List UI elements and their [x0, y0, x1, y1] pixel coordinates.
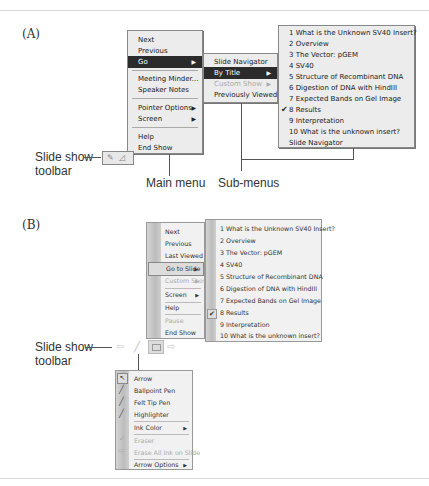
menu-item-custom-show[interactable]: Custom Show ▶	[163, 275, 204, 287]
callout-text: toolbar	[35, 354, 93, 368]
menu-item-custom-show-label: Custom Show	[214, 80, 262, 88]
menu-item-eraser[interactable]: Eraser	[132, 435, 192, 447]
panel-a-by-title-submenu: 1 What is the Unknown SV40 Insert? 2 Ove…	[278, 25, 415, 148]
check-icon: ✔	[207, 309, 217, 319]
submenu-arrow-icon: ▶	[183, 422, 187, 434]
panel-a-go-submenu: Slide Navigator By Title ▶ Custom Show ▶…	[203, 53, 278, 103]
slide-item[interactable]: 6 Digestion of DNA with HindIII	[218, 283, 321, 295]
menu-separator	[132, 127, 198, 128]
slide-item[interactable]: 4 SV40	[218, 259, 321, 271]
previous-arrow-icon[interactable]: ⇦	[116, 341, 124, 352]
panel-b-main-menu: Next Previous Last Viewed Go to Slide ▶ …	[146, 222, 205, 339]
menu-separator	[132, 70, 198, 71]
callout-line	[241, 103, 242, 171]
menu-item-ballpoint-pen[interactable]: Ballpoint Pen	[132, 385, 192, 397]
slide-item[interactable]: 5 Structure of Recombinant DNA	[218, 271, 321, 283]
menu-item-end-show[interactable]: End Show	[163, 327, 204, 339]
panel-a-slideshow-toolbar: ✎ ◿	[102, 151, 134, 165]
menu-item-help[interactable]: Help	[163, 302, 204, 314]
submenu-arrow-icon: ▶	[194, 263, 198, 275]
slide-item-current[interactable]: 8 Results	[218, 307, 321, 319]
menu-item-arrow[interactable]: Arrow	[132, 373, 192, 385]
submenu-arrow-icon: ▶	[195, 289, 199, 301]
menu-item-custom-show-label: Custom Show	[165, 277, 208, 284]
menu-icon[interactable]: ◿	[119, 153, 125, 162]
highlighter-icon: ╱	[119, 409, 124, 418]
menu-item-previously-viewed[interactable]: Previously Viewed	[204, 89, 277, 101]
callout-text: toolbar	[35, 164, 93, 178]
menu-item-arrow-options[interactable]: Arrow Options ▶	[132, 459, 192, 471]
panel-b-slideshow-toolbar: ⇦ ╱ ⇨	[114, 340, 180, 354]
slide-item[interactable]: 10 What is the unknown insert?	[218, 330, 321, 342]
menu-item-screen-label: Screen	[165, 291, 187, 298]
bottom-rule	[0, 478, 429, 479]
menu-item-end-show[interactable]: End Show	[128, 142, 202, 154]
slide-item[interactable]: 3 The Vector: pGEM	[218, 247, 321, 259]
pen-icon[interactable]: ╱	[134, 341, 140, 352]
menu-item-ink-color-label: Ink Color	[134, 424, 162, 431]
panel-b-go-to-slide-submenu: 1 What is the Unknown SV40 Insert? 2 Ove…	[205, 219, 322, 342]
submenu-arrow-icon: ▶	[183, 459, 187, 471]
menu-item-go[interactable]: Go ▶	[128, 56, 202, 68]
menu-item-ink-color[interactable]: Ink Color ▶	[132, 422, 192, 434]
slide-item[interactable]: 2 Overview	[218, 235, 321, 247]
menu-item-go-label: Go	[138, 58, 148, 66]
callout-toolbar-b: Slide show toolbar	[35, 340, 93, 368]
menu-item-speaker-notes[interactable]: Speaker Notes	[128, 84, 202, 96]
menu-item-go-to-slide[interactable]: Go to Slide ▶	[148, 262, 204, 276]
menu-icon[interactable]	[148, 340, 164, 354]
callout-line	[169, 154, 170, 176]
menu-item-previous[interactable]: Previous	[163, 238, 204, 250]
callout-line	[85, 347, 112, 348]
ballpoint-pen-icon: ╱	[119, 385, 124, 394]
callout-line	[241, 159, 354, 160]
menu-item-felt-tip-pen[interactable]: Felt Tip Pen	[132, 397, 192, 409]
submenu-arrow-icon: ▶	[195, 275, 199, 287]
eraser-icon: ✓	[119, 434, 126, 443]
menu-item-screen[interactable]: Screen ▶	[163, 289, 204, 301]
panel-a-main-menu: Next Previous Go ▶ Meeting Minder... Spe…	[127, 30, 203, 154]
submenu-arrow-icon: ▶	[191, 56, 196, 68]
pen-icon[interactable]: ✎	[107, 153, 114, 162]
erase-all-icon: ▭	[118, 446, 125, 454]
top-rule	[0, 10, 429, 11]
slide-item[interactable]: 7 Expected Bands on Gel Image	[218, 295, 321, 307]
panel-a-label: (A)	[22, 27, 40, 41]
slide-navigator-item[interactable]: Slide Navigator	[279, 137, 414, 149]
menu-item-screen-label: Screen	[138, 115, 162, 123]
callout-toolbar-a: Slide show toolbar	[35, 150, 93, 178]
menu-separator	[132, 98, 198, 99]
felt-tip-pen-icon: ╱	[119, 397, 124, 406]
menu-item-pause[interactable]: Pause	[163, 315, 204, 327]
menu-item-highlighter[interactable]: Highlighter	[132, 409, 192, 421]
menu-item-last-viewed[interactable]: Last Viewed	[163, 250, 204, 262]
submenu-arrow-icon: ▶	[191, 113, 196, 125]
menu-item-arrow-options-label: Arrow Options	[134, 461, 179, 468]
menu-gutter	[147, 223, 161, 338]
callout-sub-menus: Sub-menus	[218, 176, 279, 190]
menu-item-erase-all-ink[interactable]: Erase All Ink on Slide	[132, 447, 192, 459]
panel-b-label: (B)	[22, 218, 40, 232]
menu-item-screen[interactable]: Screen ▶	[128, 113, 202, 125]
callout-main-menu: Main menu	[146, 176, 205, 190]
next-arrow-icon[interactable]: ⇨	[167, 341, 175, 352]
slide-item-label: 8 Results	[220, 309, 249, 316]
menu-gutter	[206, 220, 216, 341]
callout-line	[84, 157, 101, 158]
callout-line	[353, 148, 354, 160]
menu-item-pointer-options-label: Pointer Options	[138, 104, 192, 112]
arrow-icon: ↖	[117, 373, 128, 384]
slide-item[interactable]: 1 What is the Unknown SV40 Insert?	[218, 223, 321, 235]
slide-item-label: 8 Results	[289, 106, 321, 114]
panel-b-pointer-menu: ↖ ╱ ╱ ╱ ✓ ▭ Arrow Ballpoint Pen Felt Tip…	[115, 370, 193, 470]
menu-item-by-title-label: By Title	[214, 69, 240, 77]
menu-item-next[interactable]: Next	[163, 226, 204, 238]
callout-line	[138, 354, 139, 370]
